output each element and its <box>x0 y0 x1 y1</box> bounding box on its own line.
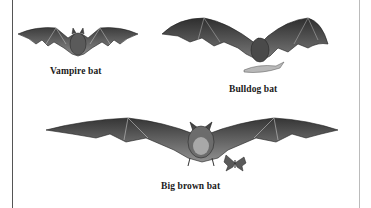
vampire-bat-label: Vampire bat <box>50 66 102 76</box>
vampire-bat-illustration <box>16 24 140 60</box>
bulldog-bat-label: Bulldog bat <box>229 84 277 94</box>
bulldog-bat-illustration <box>158 14 330 76</box>
moth-illustration <box>222 154 248 174</box>
big-brown-bat-label: Big brown bat <box>161 181 220 191</box>
big-brown-bat-illustration <box>44 112 340 168</box>
